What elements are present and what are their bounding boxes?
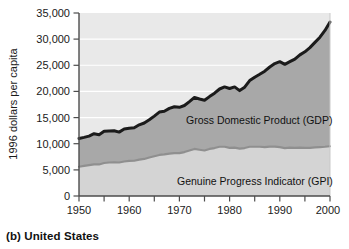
x-tick-label-1990: 1990 xyxy=(268,204,292,216)
y-tick-label-20000: 20,000 xyxy=(36,85,70,97)
x-tick-label-1970: 1970 xyxy=(167,204,191,216)
y-tick-label-0: 0 xyxy=(64,190,70,202)
y-axis-ticks xyxy=(74,13,80,196)
x-tick-label-1960: 1960 xyxy=(117,204,141,216)
x-tick-label-2000: 2000 xyxy=(316,204,340,216)
y-axis-title: 1996 dollars per capita xyxy=(7,47,19,159)
figure-panel: 35,000 30,000 25,000 20,000 15,000 10,00… xyxy=(0,0,349,249)
x-tick-label-1980: 1980 xyxy=(217,204,241,216)
y-tick-label-35000: 35,000 xyxy=(36,7,70,19)
y-tick-label-5000: 5,000 xyxy=(42,164,70,176)
y-tick-label-15000: 15,000 xyxy=(36,112,70,124)
x-axis-ticks xyxy=(79,196,330,202)
y-tick-label-25000: 25,000 xyxy=(36,59,70,71)
y-tick-label-10000: 10,000 xyxy=(36,138,70,150)
gdp-gpi-area-chart: 35,000 30,000 25,000 20,000 15,000 10,00… xyxy=(0,0,349,249)
gpi-series-annotation: Genuine Progress Indicator (GPI) xyxy=(177,175,333,187)
x-tick-label-1950: 1950 xyxy=(67,204,91,216)
gdp-series-annotation: Gross Domestic Product (GDP) xyxy=(186,114,332,126)
y-tick-label-30000: 30,000 xyxy=(36,33,70,45)
figure-caption: (b) United States xyxy=(6,230,99,242)
